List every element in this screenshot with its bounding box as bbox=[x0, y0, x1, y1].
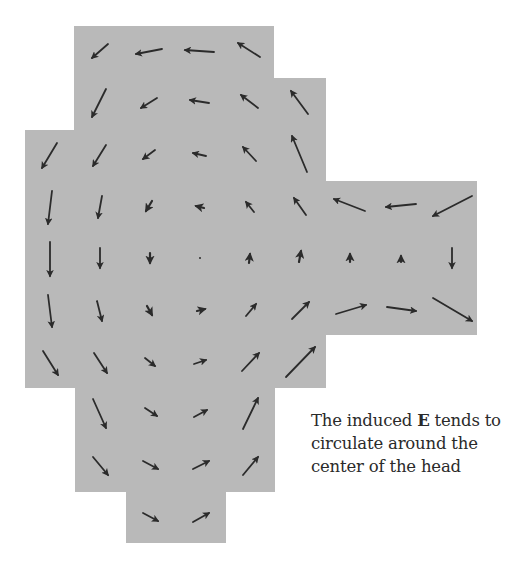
lower-block bbox=[75, 387, 275, 492]
field-vector-dot bbox=[199, 257, 201, 259]
figure-caption: The induced E tends to circulate around … bbox=[311, 409, 521, 478]
bottom-block bbox=[126, 491, 226, 543]
top-block bbox=[74, 26, 274, 136]
caption-text-before: The induced bbox=[311, 411, 417, 430]
field-vector-arrow bbox=[249, 254, 250, 263]
induced-e-field-figure bbox=[0, 0, 524, 565]
caption-e-symbol: E bbox=[417, 411, 429, 430]
middle-block bbox=[25, 130, 326, 388]
